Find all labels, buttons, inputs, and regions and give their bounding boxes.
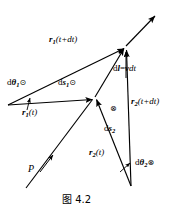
label-ds2-sub: 2 (112, 127, 115, 134)
label-dtheta1: dθ1⊙ (7, 78, 26, 89)
label-dtheta2: dθ2⊗ (135, 158, 154, 169)
label-r2-t-rest: (t) (96, 147, 105, 157)
label-dl-dt: dt (129, 63, 136, 73)
cross-into-page-icon-2: ⊗ (147, 158, 154, 167)
label-r1-t: r1(t) (22, 108, 37, 119)
label-r1-t-plus-dt: r1(t+dt) (49, 35, 77, 46)
label-cross-middle: ⊗ (110, 104, 117, 113)
label-r2-t-plus-dt-rest: (t+dt) (138, 96, 160, 106)
vector-r1-t-line (8, 100, 93, 106)
label-dl-equals-vdt: dl=vdt (113, 64, 136, 73)
dot-out-of-page-icon: ⊙ (19, 78, 26, 87)
figure-caption: 图 4.2 (62, 191, 91, 206)
label-ds2: ds2 (104, 124, 115, 135)
label-ds1: ds1⊙ (58, 78, 76, 89)
ray-upper-extension-line (126, 16, 155, 46)
ray-p-arrowhead-line (40, 155, 53, 172)
label-r1-t-plus-dt-rest: (t+dt) (56, 34, 78, 44)
label-point-p-text: P (28, 163, 34, 174)
label-point-p: P (28, 164, 34, 174)
figure-container: r1(t+dt) dθ1⊙ ds1⊙ r1(t) dl=vdt r2(t+dt)… (0, 0, 173, 210)
label-r2-t-plus-dt: r2(t+dt) (131, 97, 159, 108)
label-r2-t: r2(t) (89, 148, 104, 159)
label-r1-t-rest: (t) (29, 107, 38, 117)
cross-into-page-icon: ⊗ (110, 104, 117, 113)
dot-out-of-page-icon-2: ⊙ (69, 78, 76, 87)
